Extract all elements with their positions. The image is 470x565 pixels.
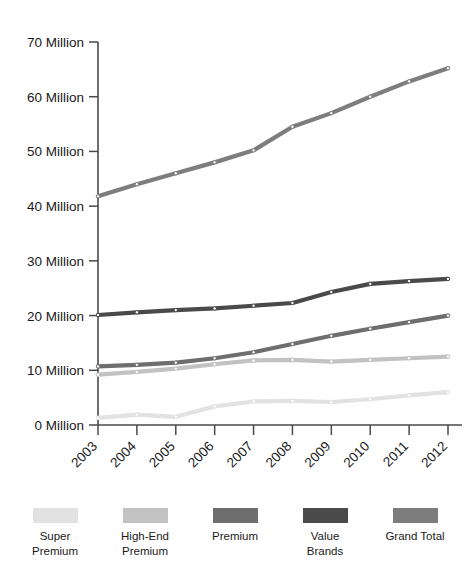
data-point <box>252 304 255 307</box>
data-point <box>369 398 372 401</box>
series-line-value-brands <box>98 279 448 315</box>
x-tick-label: 2012 <box>418 439 450 471</box>
data-point <box>330 290 333 293</box>
data-point <box>330 111 333 114</box>
legend-swatch <box>213 508 258 523</box>
legend-label: High-End Premium <box>121 529 169 559</box>
series-line-grand-total <box>98 68 448 196</box>
data-point <box>135 363 138 366</box>
legend-swatch <box>123 508 168 523</box>
data-point <box>96 313 99 316</box>
line-chart: 0 Million10 Million20 Million30 Million4… <box>0 0 470 500</box>
data-point <box>330 360 333 363</box>
data-point <box>252 149 255 152</box>
chart-legend: Super PremiumHigh-End PremiumPremiumValu… <box>0 500 470 565</box>
x-tick-label: 2004 <box>107 438 139 470</box>
legend-item[interactable]: Grand Total <box>381 508 449 544</box>
y-tick-label: 50 Million <box>27 144 84 159</box>
data-point <box>96 195 99 198</box>
data-point <box>291 125 294 128</box>
x-tick-label: 2006 <box>185 439 217 471</box>
data-point <box>407 80 410 83</box>
data-point <box>369 95 372 98</box>
legend-item[interactable]: High-End Premium <box>111 508 179 559</box>
y-tick-label: 10 Million <box>27 363 84 378</box>
legend-swatch <box>303 508 348 523</box>
series-layer <box>96 67 449 420</box>
data-point <box>135 370 138 373</box>
data-point <box>174 308 177 311</box>
data-point <box>252 351 255 354</box>
data-point <box>135 413 138 416</box>
x-tick-label: 2008 <box>263 439 295 471</box>
data-point <box>174 172 177 175</box>
data-point <box>213 405 216 408</box>
y-tick-label: 20 Million <box>27 309 84 324</box>
data-point <box>213 363 216 366</box>
legend-label: Grand Total <box>385 529 444 544</box>
data-point <box>369 327 372 330</box>
y-tick-label: 70 Million <box>27 35 84 50</box>
data-point <box>446 277 449 280</box>
data-point <box>291 399 294 402</box>
x-tick-label: 2011 <box>380 439 411 470</box>
data-point <box>446 390 449 393</box>
y-axis: 0 Million10 Million20 Million30 Million4… <box>27 35 98 433</box>
x-axis: 2003200420052006200720082009201020112012 <box>68 425 462 470</box>
series-line-super-premium <box>98 392 448 418</box>
y-tick-label: 30 Million <box>27 254 84 269</box>
legend-swatch <box>33 508 78 523</box>
data-point <box>96 416 99 419</box>
data-point <box>330 400 333 403</box>
data-point <box>369 282 372 285</box>
legend-swatch <box>393 508 438 523</box>
x-tick-label: 2010 <box>340 439 372 471</box>
data-point <box>174 361 177 364</box>
data-point <box>446 67 449 70</box>
data-point <box>446 314 449 317</box>
y-tick-label: 40 Million <box>27 199 84 214</box>
data-point <box>407 357 410 360</box>
data-point <box>407 279 410 282</box>
y-tick-label: 60 Million <box>27 90 84 105</box>
data-point <box>135 311 138 314</box>
data-point <box>174 415 177 418</box>
data-point <box>213 307 216 310</box>
legend-item[interactable]: Super Premium <box>21 508 89 559</box>
data-point <box>291 301 294 304</box>
data-point <box>291 358 294 361</box>
data-point <box>174 367 177 370</box>
legend-label: Premium <box>212 529 258 544</box>
data-point <box>213 357 216 360</box>
x-tick-label: 2003 <box>68 439 100 471</box>
data-point <box>96 373 99 376</box>
data-point <box>407 320 410 323</box>
chart-page: 0 Million10 Million20 Million30 Million4… <box>0 0 470 565</box>
data-point <box>96 365 99 368</box>
data-point <box>407 394 410 397</box>
legend-label: Super Premium <box>32 529 78 559</box>
data-point <box>446 355 449 358</box>
data-point <box>369 358 372 361</box>
legend-item[interactable]: Premium <box>201 508 269 544</box>
data-point <box>330 334 333 337</box>
data-point <box>252 359 255 362</box>
data-point <box>213 161 216 164</box>
data-point <box>135 183 138 186</box>
legend-label: Value Brands <box>291 529 359 559</box>
x-tick-label: 2007 <box>224 439 256 471</box>
x-tick-label: 2005 <box>146 439 178 471</box>
data-point <box>291 342 294 345</box>
y-tick-label: 0 Million <box>34 418 84 433</box>
x-tick-label: 2009 <box>302 439 334 471</box>
data-point <box>252 400 255 403</box>
legend-item[interactable]: Value Brands <box>291 508 359 559</box>
chart-plot-area: 0 Million10 Million20 Million30 Million4… <box>0 0 470 500</box>
